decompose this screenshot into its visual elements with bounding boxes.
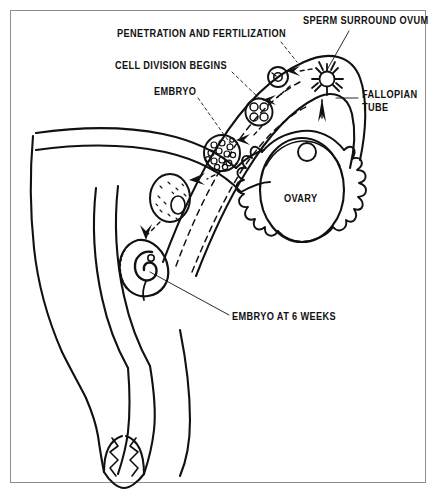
- label-sperm-surround-ovum: SPERM SURROUND OVUM: [303, 14, 429, 27]
- leader-embryo-6-weeks: [150, 272, 229, 315]
- blastocyst-embryo: [150, 174, 190, 222]
- label-embryo: EMBRYO: [154, 85, 196, 98]
- sperm-surround-ovum-burst: [312, 62, 343, 95]
- label-ovary: OVARY: [284, 192, 318, 205]
- diagram-figure: PENETRATION AND FERTILIZATION CELL DIVIS…: [0, 0, 438, 495]
- label-cell-division-begins: CELL DIVISION BEGINS: [115, 59, 227, 72]
- reproductive-tract-illustration: [0, 0, 438, 495]
- implanted-embryo-6-weeks: [120, 240, 169, 300]
- four-cell-stage: [246, 99, 273, 126]
- label-fallopian-tube: FALLOPIAN TUBE: [362, 88, 417, 114]
- fimbriae: [237, 131, 367, 242]
- leader-penetration: [281, 42, 297, 62]
- label-leader-lines-solid: [150, 31, 358, 315]
- leader-sperm: [327, 31, 349, 70]
- label-penetration-and-fertilization: PENETRATION AND FERTILIZATION: [117, 27, 286, 40]
- label-fallopian-tube-line2: TUBE: [362, 101, 417, 114]
- label-embryo-at-6-weeks: EMBRYO AT 6 WEEKS: [232, 310, 336, 323]
- ovarian-follicle: [298, 143, 316, 161]
- leader-embryo: [198, 98, 232, 146]
- fallopian-tube-lumen: [176, 80, 308, 272]
- label-fallopian-tube-line1: FALLOPIAN: [362, 88, 417, 101]
- leader-cell-division: [232, 72, 262, 101]
- cervix-and-vaginal-canal: [86, 330, 190, 488]
